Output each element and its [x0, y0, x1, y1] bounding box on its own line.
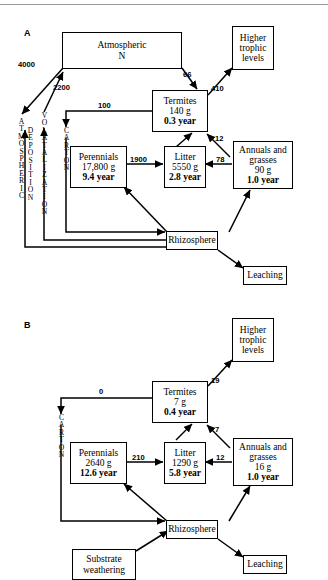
box-b-leaching: Leaching — [243, 555, 287, 574]
flow-b-termites-to-carton: 0 — [99, 387, 103, 396]
flow-a-termites-to-carton: 100 — [98, 101, 111, 110]
vlabel-b-carton: CARTON — [57, 414, 66, 458]
vlabel-a-atmospheric: ATMOSPHERIC — [17, 118, 26, 199]
connector-layer — [0, 0, 328, 580]
box-a-rhizosphere: Rhizosphere — [166, 231, 218, 250]
box-a-perennials: Perennials 17,800 g 9.4 year — [70, 146, 127, 188]
panel-label-b: B — [24, 320, 31, 330]
flow-a-perennials-to-litter: 1900 — [130, 155, 147, 164]
vlabel-a-deposition: DEPOSITION — [26, 127, 35, 201]
flow-a-annuals-to-termites: 12 — [215, 134, 223, 143]
flow-a-annuals-to-litter: 78 — [216, 155, 224, 164]
arrow-b-perennials-to-termites — [176, 424, 192, 440]
flow-a-termites-to-higher: 410 — [211, 84, 224, 93]
flow-a-atmos-to-termites: 66 — [183, 70, 191, 79]
box-a-litter: Litter 5550 g 2.8 year — [164, 146, 206, 188]
box-b-substrate-weathering: Substrate weathering — [72, 549, 136, 580]
vlabel-a-volatalization: VOLATALIZATION — [40, 112, 49, 216]
arrow-a-rhizosphere-to-leaching — [218, 250, 243, 268]
flow-b-annuals-to-litter: 12 — [216, 453, 224, 462]
arrow-a-rhizosphere-to-perennials — [124, 187, 167, 232]
box-b-higher-trophic-levels: Higher trophic levels — [232, 318, 274, 362]
panel-label-a: A — [24, 28, 31, 38]
arrow-b-rhizosphere-to-perennials — [124, 484, 167, 521]
flow-b-termites-to-higher: 19 — [211, 376, 219, 385]
box-a-higher-trophic-levels: Higher trophic levels — [232, 26, 274, 70]
box-b-litter: Litter 1290 g 5.8 year — [164, 442, 206, 484]
nitrogen-flow-diagram: A Atmospheric N Higher trophic levels Te… — [0, 0, 328, 580]
vlabel-a-carton: CARTON — [62, 127, 71, 171]
arrow-a-rhizosphere-to-annuals — [229, 190, 250, 232]
arrow-b-rhizosphere-to-annuals — [229, 486, 250, 521]
arrow-b-rhizosphere-to-leaching — [218, 539, 243, 557]
flow-a-volatalization: 2200 — [53, 83, 70, 92]
flow-a-deposition: 4000 — [18, 60, 35, 69]
box-b-rhizosphere: Rhizosphere — [166, 520, 218, 539]
box-a-termites: Termites 140 g 0.3 year — [152, 90, 208, 132]
box-b-termites: Termites 7 g 0.4 year — [152, 381, 208, 423]
flow-b-perennials-to-litter: 210 — [132, 453, 145, 462]
arrow-a-termites-to-carton — [66, 111, 152, 127]
box-a-atmospheric-n: Atmospheric N — [62, 32, 182, 69]
flow-b-annuals-to-termites: 7 — [215, 425, 219, 434]
arrow-b-substrate-to-rhizosphere — [136, 531, 168, 551]
box-b-perennials: Perennials 2640 g 12.6 year — [70, 442, 127, 484]
box-a-leaching: Leaching — [243, 266, 287, 285]
arrow-b-termites-to-carton — [61, 398, 152, 414]
box-b-annuals-and-grasses: Annuals and grasses 16 g 1.0 year — [233, 438, 293, 486]
box-a-annuals-and-grasses: Annuals and grasses 90 g 1.0 year — [233, 141, 293, 189]
arrow-a-perennials-to-termites — [176, 133, 192, 147]
